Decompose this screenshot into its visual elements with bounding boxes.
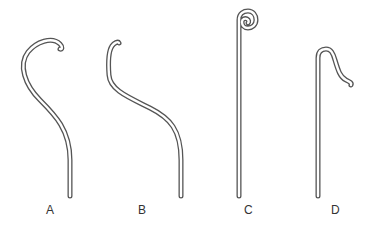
wire-c-shape [239, 11, 256, 196]
label-c: C [244, 203, 253, 217]
wire-b-shape [108, 42, 181, 196]
label-d: D [331, 203, 340, 217]
wire-a-shape [23, 40, 70, 196]
wire-d-shape [318, 49, 351, 196]
label-b: B [138, 203, 146, 217]
wire-shapes-figure [0, 0, 372, 229]
label-a: A [46, 203, 54, 217]
